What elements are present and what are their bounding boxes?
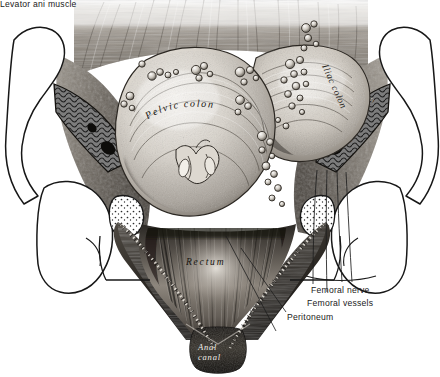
callout-femoral-vessels: Femoral vessels xyxy=(307,299,373,308)
anatomy-illustration: ILIO-PSOAS xyxy=(0,0,440,377)
callout-peritoneum: Peritoneum xyxy=(287,313,333,322)
callout-levator-ani-muscle: Levator ani muscle xyxy=(0,0,77,9)
inline-label-rectum: Rectum xyxy=(185,257,225,267)
inline-label-canal: canal xyxy=(198,352,221,362)
anatomical-figure: ILIO-PSOAS xyxy=(0,0,440,377)
callout-femoral-nerve: Femoral nerve xyxy=(311,286,370,295)
